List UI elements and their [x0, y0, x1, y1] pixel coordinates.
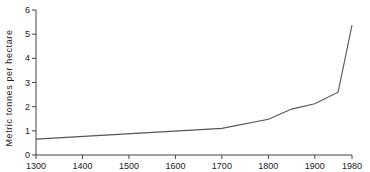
y-tick-label: 5 — [25, 29, 30, 39]
y-tick-label: 0 — [25, 150, 30, 160]
x-tick-label: 1700 — [212, 161, 232, 171]
y-axis-label: Metric tonnes per hectare — [4, 29, 14, 146]
y-tick-label: 4 — [25, 53, 30, 63]
yield-line — [36, 25, 352, 139]
x-axis: 13001400150016001700180019001980 — [26, 155, 362, 171]
x-tick-label: 1600 — [165, 161, 185, 171]
line-chart: 0123456 13001400150016001700180019001980… — [0, 0, 370, 172]
x-tick-label: 1800 — [258, 161, 278, 171]
x-tick-label: 1980 — [342, 161, 362, 171]
y-tick-label: 2 — [25, 102, 30, 112]
x-tick-label: 1400 — [72, 161, 92, 171]
x-tick-label: 1900 — [305, 161, 325, 171]
y-tick-label: 6 — [25, 5, 30, 15]
y-tick-label: 1 — [25, 126, 30, 136]
x-tick-label: 1300 — [26, 161, 46, 171]
x-tick-label: 1500 — [119, 161, 139, 171]
y-axis: 0123456 — [25, 5, 36, 160]
y-tick-label: 3 — [25, 78, 30, 88]
